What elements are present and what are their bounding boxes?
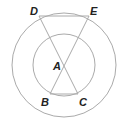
label-b: B: [41, 96, 49, 108]
label-d: D: [30, 5, 38, 17]
segment-eb: [50, 16, 89, 94]
segment-dc: [39, 16, 78, 94]
label-c: C: [79, 96, 88, 108]
geometry-diagram: D E A B C: [0, 0, 127, 124]
label-a: A: [52, 60, 61, 72]
label-e: E: [90, 5, 98, 17]
